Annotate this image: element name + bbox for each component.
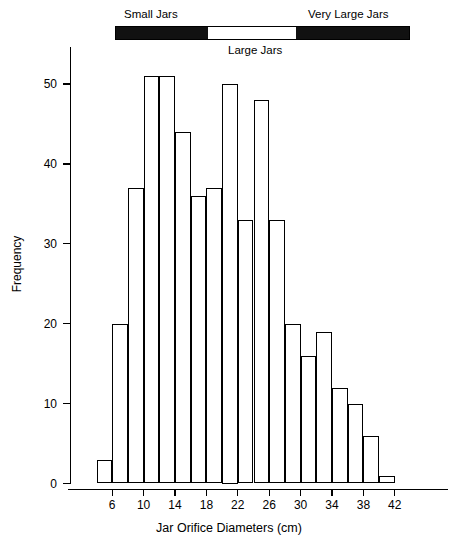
histogram-bar — [175, 132, 191, 484]
histogram-bar — [269, 220, 285, 484]
x-tick-10 — [143, 489, 144, 496]
x-axis-title: Jar Orifice Diameters (cm) — [0, 521, 458, 535]
x-tick-42 — [394, 489, 395, 496]
x-tick-34 — [331, 489, 332, 496]
histogram-bar — [128, 188, 144, 484]
histogram-bar — [301, 356, 317, 484]
histogram-bar — [159, 76, 175, 483]
y-tick-10 — [63, 403, 70, 404]
histogram-bar — [222, 84, 238, 484]
x-tick-38 — [363, 489, 364, 496]
x-tick-label-10: 10 — [129, 499, 159, 511]
histogram-bar — [379, 476, 395, 484]
histogram-bar — [144, 76, 160, 483]
y-tick-50 — [63, 83, 70, 84]
x-tick-label-22: 22 — [223, 499, 253, 511]
histogram-bar — [191, 196, 207, 484]
x-tick-18 — [206, 489, 207, 496]
x-tick-6 — [112, 489, 113, 496]
histogram-bar — [254, 100, 270, 484]
histogram-bar — [112, 324, 128, 484]
histogram-bar — [97, 460, 113, 484]
histogram-bar — [363, 436, 379, 484]
histogram-bar — [348, 404, 364, 484]
y-tick-label-20: 20 — [17, 318, 57, 330]
y-tick-label-30: 30 — [17, 238, 57, 250]
x-tick-26 — [269, 489, 270, 496]
x-tick-22 — [237, 489, 238, 496]
histogram-bar — [285, 324, 301, 484]
y-tick-label-40: 40 — [17, 158, 57, 170]
x-tick-label-34: 34 — [317, 499, 347, 511]
histogram-bar — [206, 188, 222, 484]
x-tick-label-42: 42 — [380, 499, 410, 511]
y-axis-title: Frequency — [10, 214, 24, 314]
x-tick-14 — [174, 489, 175, 496]
x-axis-line — [68, 489, 448, 490]
y-tick-0 — [63, 483, 70, 484]
x-tick-label-18: 18 — [191, 499, 221, 511]
y-tick-label-0: 0 — [17, 478, 57, 490]
y-tick-30 — [63, 243, 70, 244]
y-tick-label-10: 10 — [17, 398, 57, 410]
y-axis-line — [70, 47, 71, 484]
y-tick-40 — [63, 163, 70, 164]
x-tick-label-14: 14 — [160, 499, 190, 511]
histogram-bar — [238, 220, 254, 484]
y-tick-label-50: 50 — [17, 78, 57, 90]
x-tick-label-30: 30 — [286, 499, 316, 511]
x-tick-label-26: 26 — [254, 499, 284, 511]
x-tick-30 — [300, 489, 301, 496]
x-tick-label-38: 38 — [348, 499, 378, 511]
y-tick-20 — [63, 323, 70, 324]
plot-area: Frequency Jar Orifice Diameters (cm) 010… — [0, 0, 458, 548]
histogram-figure: Small Jars Very Large Jars Large Jars Fr… — [0, 0, 458, 548]
x-tick-label-6: 6 — [97, 499, 127, 511]
histogram-bar — [316, 332, 332, 484]
histogram-bar — [332, 388, 348, 484]
